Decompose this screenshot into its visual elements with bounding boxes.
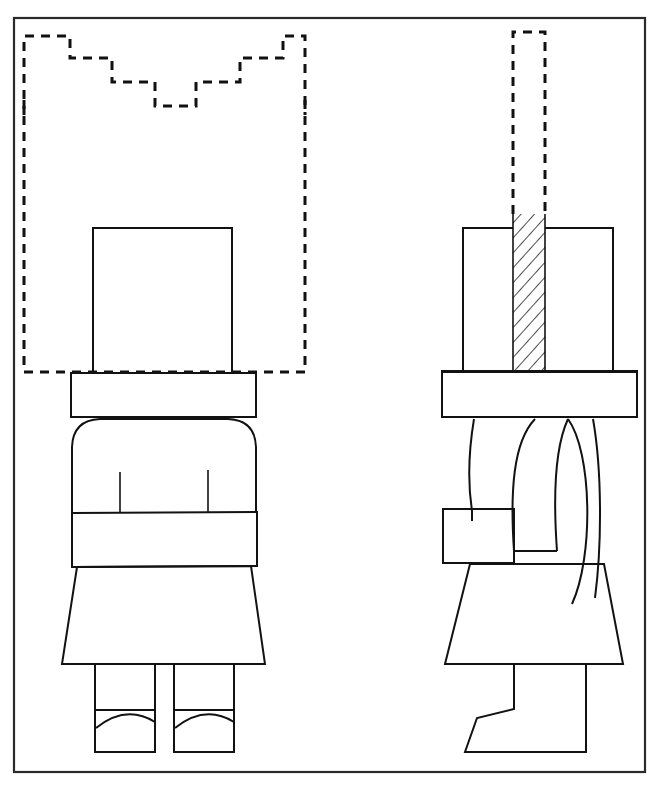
body-back-edge <box>469 419 474 521</box>
side-elevation <box>442 32 637 752</box>
head-block <box>93 228 232 373</box>
shoe-arc-left <box>96 714 155 728</box>
head-block-front <box>545 228 613 372</box>
hatched-slot <box>510 210 550 376</box>
arm-profile-inner <box>512 419 535 551</box>
belt-band-side <box>443 509 514 563</box>
crown-phantom-rod <box>513 32 545 214</box>
crown-phantom-outline <box>24 36 305 115</box>
shoe-arc-right <box>175 714 234 728</box>
skirt-trapezoid <box>62 566 265 664</box>
torso <box>72 419 256 513</box>
drawing-border <box>14 18 645 772</box>
arm-front-edge <box>555 419 568 551</box>
belt-band <box>72 512 257 567</box>
hat-brim-side <box>442 371 637 417</box>
leg-right <box>174 664 234 752</box>
leg-left <box>95 664 155 752</box>
body-front-edge <box>593 419 600 598</box>
front-elevation <box>24 36 305 752</box>
technical-drawing-svg <box>0 0 656 789</box>
arm-profile-outer <box>568 419 587 604</box>
patent-drawing-page: U.S. Patent <box>0 0 656 789</box>
hat-brim <box>71 373 256 417</box>
head-block-rear <box>463 228 513 372</box>
boot-profile <box>465 664 586 752</box>
